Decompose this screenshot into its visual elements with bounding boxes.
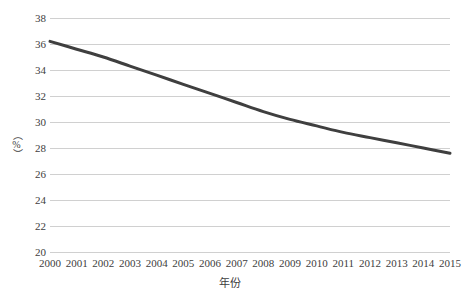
plot-area [50, 18, 450, 252]
y-axis-tick-label: 26 [24, 169, 46, 180]
series-line [50, 18, 450, 252]
x-axis-tick-label: 2015 [430, 256, 466, 270]
gridline [50, 252, 450, 253]
y-axis-tick-label: 32 [24, 91, 46, 102]
y-axis-tick-label: 24 [24, 195, 46, 206]
x-axis-tick-labels: 2000200120022003200420052006200720082009… [50, 256, 450, 272]
y-axis-tick-label: 34 [24, 65, 46, 76]
y-axis-tick-label: 30 [24, 117, 46, 128]
y-axis-tick-label: 22 [24, 221, 46, 232]
y-axis-tick-label: 36 [24, 39, 46, 50]
y-axis-tick-label: 38 [24, 13, 46, 24]
x-axis-title: 年份 [0, 276, 460, 290]
series-path [50, 41, 450, 153]
y-axis-tick-label: 28 [24, 143, 46, 154]
